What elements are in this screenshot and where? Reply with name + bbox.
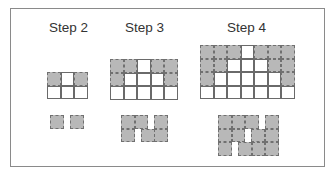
empty-cell xyxy=(214,86,228,100)
step-4-label: Step 4 xyxy=(227,20,266,35)
empty-cell xyxy=(227,59,241,73)
empty-cell xyxy=(254,72,268,86)
empty-cell xyxy=(268,72,282,86)
empty-cell xyxy=(110,86,124,100)
empty-cell xyxy=(124,86,138,100)
empty-cell xyxy=(151,73,165,87)
removed-piece xyxy=(232,129,246,143)
empty-cell xyxy=(227,72,241,86)
shaded-cell xyxy=(164,73,178,87)
removed-piece xyxy=(245,115,259,129)
shaded-cell xyxy=(268,45,282,59)
shaded-cell xyxy=(268,59,282,73)
empty-cell xyxy=(61,72,75,86)
empty-cell xyxy=(227,86,241,100)
removed-piece xyxy=(232,115,246,129)
empty-cell xyxy=(241,59,255,73)
shaded-cell xyxy=(74,72,88,86)
shaded-cell xyxy=(47,72,61,86)
removed-piece xyxy=(265,142,279,156)
removed-piece xyxy=(70,115,84,129)
shaded-cell xyxy=(254,45,268,59)
empty-cell xyxy=(214,72,228,86)
empty-cell xyxy=(254,86,268,100)
empty-cell xyxy=(241,86,255,100)
shaded-cell xyxy=(227,45,241,59)
empty-cell xyxy=(241,72,255,86)
removed-piece xyxy=(265,115,279,129)
removed-piece xyxy=(265,129,279,143)
empty-cell xyxy=(137,73,151,87)
removed-piece xyxy=(218,129,232,143)
shaded-cell xyxy=(214,45,228,59)
shaded-cell xyxy=(200,72,214,86)
removed-piece xyxy=(141,129,155,143)
shaded-cell xyxy=(110,59,124,73)
removed-piece xyxy=(121,129,135,143)
shaded-cell xyxy=(200,45,214,59)
empty-cell xyxy=(137,86,151,100)
empty-cell xyxy=(254,59,268,73)
empty-cell xyxy=(61,86,75,100)
removed-piece xyxy=(251,129,265,143)
empty-cell xyxy=(268,86,282,100)
removed-piece xyxy=(154,129,168,143)
shaded-cell xyxy=(281,59,295,73)
empty-cell xyxy=(241,45,255,59)
shaded-cell xyxy=(164,59,178,73)
empty-cell xyxy=(200,86,214,100)
shaded-cell xyxy=(281,45,295,59)
removed-piece xyxy=(121,115,135,129)
shaded-cell xyxy=(214,59,228,73)
step-3-label: Step 3 xyxy=(125,20,164,35)
step-2-label: Step 2 xyxy=(49,20,88,35)
removed-piece xyxy=(218,115,232,129)
empty-cell xyxy=(74,86,88,100)
removed-piece xyxy=(135,115,149,129)
shaded-cell xyxy=(281,72,295,86)
shaded-cell xyxy=(124,59,138,73)
removed-piece xyxy=(218,142,232,156)
empty-cell xyxy=(47,86,61,100)
empty-cell xyxy=(137,59,151,73)
shaded-cell xyxy=(151,59,165,73)
shaded-cell xyxy=(110,73,124,87)
empty-cell xyxy=(281,86,295,100)
empty-cell xyxy=(151,86,165,100)
removed-piece xyxy=(50,115,64,129)
removed-piece xyxy=(238,142,252,156)
removed-piece xyxy=(252,142,266,156)
shaded-cell xyxy=(200,59,214,73)
empty-cell xyxy=(124,73,138,87)
removed-piece xyxy=(154,115,168,129)
empty-cell xyxy=(164,86,178,100)
